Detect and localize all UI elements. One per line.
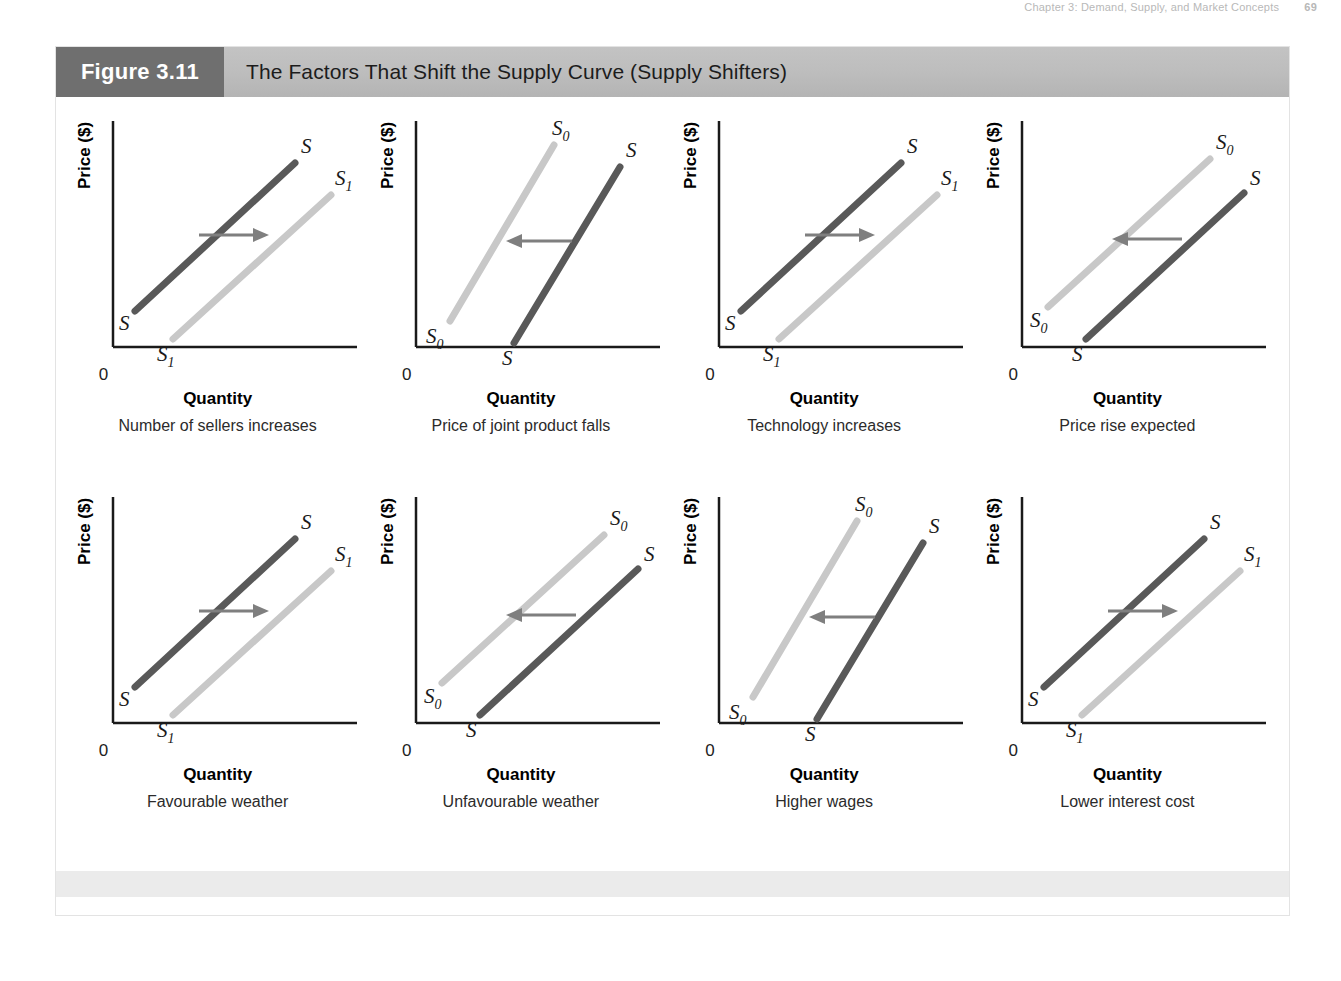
supply-shift-panel: S0S0SS Price ($) 0 QuantityPrice of join…: [369, 111, 672, 487]
origin-label: 0: [1008, 741, 1017, 761]
supply-shift-panel: S0S0SS Price ($) 0 QuantityPrice rise ex…: [976, 111, 1279, 487]
y-axis-label: Price ($): [984, 122, 1004, 189]
x-axis-label: Quantity: [1093, 765, 1162, 785]
svg-text:S: S: [805, 722, 816, 746]
plot-area: S0S0SS Price ($) 0: [376, 111, 666, 383]
curve-labels: S0S0SS: [426, 116, 637, 370]
supply-shift-panel: SSS1S1 Price ($) 0 QuantityTechnology in…: [673, 111, 976, 487]
supply-chart-svg: SSS1S1: [73, 111, 363, 383]
panel-caption: Favourable weather: [147, 793, 288, 811]
svg-text:S: S: [466, 718, 477, 742]
curve-shifted: [173, 195, 331, 339]
curve-original: [135, 163, 295, 311]
svg-text:S: S: [907, 134, 918, 158]
svg-text:S: S: [301, 510, 312, 534]
panel-caption: Lower interest cost: [1060, 793, 1194, 811]
svg-text:S: S: [626, 138, 637, 162]
curve-shifted: [1082, 571, 1240, 715]
svg-text:S: S: [119, 311, 130, 335]
x-axis-label: Quantity: [790, 389, 859, 409]
y-axis-label: Price ($): [681, 498, 701, 565]
svg-text:S0: S0: [1216, 130, 1234, 158]
svg-text:S: S: [644, 542, 655, 566]
supply-chart-svg: SSS1S1: [679, 111, 969, 383]
supply-shift-panel: S0S0SS Price ($) 0 QuantityUnfavourable …: [369, 487, 672, 863]
svg-text:S0: S0: [729, 700, 747, 728]
curve-shifted: [1086, 193, 1244, 339]
svg-text:S: S: [929, 514, 940, 538]
supply-chart-svg: SSS1S1: [982, 487, 1272, 759]
supply-shift-panel: SSS1S1 Price ($) 0 QuantityNumber of sel…: [66, 111, 369, 487]
curve-labels: SSS1S1: [725, 134, 959, 370]
panel-caption: Price rise expected: [1059, 417, 1195, 435]
svg-text:S: S: [1250, 166, 1261, 190]
curve-labels: SSS1S1: [119, 510, 353, 746]
y-axis-label: Price ($): [984, 498, 1004, 565]
curve-shifted: [514, 167, 620, 343]
shift-arrow-icon: [506, 608, 576, 622]
y-axis-label: Price ($): [378, 122, 398, 189]
plot-area: SSS1S1 Price ($) 0: [73, 487, 363, 759]
origin-label: 0: [402, 365, 411, 385]
page-number: 69: [1304, 1, 1317, 13]
supply-chart-svg: S0S0SS: [982, 111, 1272, 383]
panel-caption: Unfavourable weather: [443, 793, 600, 811]
svg-text:S: S: [1210, 510, 1221, 534]
plot-area: SSS1S1 Price ($) 0: [73, 111, 363, 383]
curve-labels: S0S0SS: [729, 492, 940, 746]
curve-original: [1048, 159, 1210, 307]
plot-area: S0S0SS Price ($) 0: [679, 487, 969, 759]
curve-shifted: [173, 571, 331, 715]
shift-arrow-icon: [506, 234, 572, 248]
panel-caption: Price of joint product falls: [432, 417, 611, 435]
curve-original: [135, 539, 295, 687]
running-header-text: Chapter 3: Demand, Supply, and Market Co…: [1024, 1, 1279, 13]
svg-text:S0: S0: [552, 116, 570, 144]
origin-label: 0: [99, 741, 108, 761]
x-axis-label: Quantity: [486, 765, 555, 785]
curve-shifted: [779, 195, 937, 339]
panel-grid: SSS1S1 Price ($) 0 QuantityNumber of sel…: [56, 103, 1289, 863]
figure-footer-band: [56, 871, 1289, 897]
figure-number: Figure 3.11: [56, 47, 224, 97]
figure-frame: Figure 3.11 The Factors That Shift the S…: [55, 46, 1290, 916]
svg-text:S: S: [725, 311, 736, 335]
origin-label: 0: [705, 741, 714, 761]
curve-labels: S0S0SS: [1030, 130, 1261, 366]
figure-title: The Factors That Shift the Supply Curve …: [224, 47, 1289, 97]
curve-original: [450, 145, 554, 321]
x-axis-label: Quantity: [183, 389, 252, 409]
curve-original: [753, 521, 857, 697]
svg-text:S1: S1: [941, 166, 959, 194]
svg-text:S0: S0: [424, 684, 442, 712]
x-axis-label: Quantity: [790, 765, 859, 785]
origin-label: 0: [402, 741, 411, 761]
origin-label: 0: [99, 365, 108, 385]
svg-text:S1: S1: [335, 542, 353, 570]
curve-shifted: [817, 543, 923, 719]
panel-caption: Technology increases: [747, 417, 901, 435]
curve-labels: SSS1S1: [119, 134, 353, 370]
supply-shift-panel: SSS1S1 Price ($) 0 QuantityLower interes…: [976, 487, 1279, 863]
plot-area: SSS1S1 Price ($) 0: [982, 487, 1272, 759]
svg-text:S: S: [1072, 342, 1083, 366]
curve-original: [1044, 539, 1204, 687]
svg-text:S1: S1: [335, 166, 353, 194]
svg-text:S0: S0: [426, 324, 444, 352]
y-axis-label: Price ($): [681, 122, 701, 189]
figure-body: SSS1S1 Price ($) 0 QuantityNumber of sel…: [56, 97, 1289, 897]
supply-chart-svg: SSS1S1: [73, 487, 363, 759]
svg-text:S0: S0: [610, 506, 628, 534]
shift-arrow-icon: [809, 610, 875, 624]
panel-caption: Higher wages: [775, 793, 873, 811]
svg-text:S: S: [119, 687, 130, 711]
svg-text:S0: S0: [1030, 308, 1048, 336]
svg-text:S1: S1: [1244, 542, 1262, 570]
supply-chart-svg: S0S0SS: [376, 111, 666, 383]
y-axis-label: Price ($): [378, 498, 398, 565]
svg-text:S0: S0: [855, 492, 873, 520]
y-axis-label: Price ($): [75, 122, 95, 189]
plot-area: S0S0SS Price ($) 0: [982, 111, 1272, 383]
x-axis-label: Quantity: [486, 389, 555, 409]
y-axis-label: Price ($): [75, 498, 95, 565]
